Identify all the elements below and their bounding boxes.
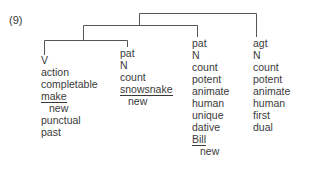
feature: potent	[253, 73, 282, 85]
column-patient-2: pat N count potent animate human unique …	[192, 37, 229, 157]
feature: animate	[253, 85, 290, 97]
feature: first	[253, 109, 270, 121]
feature: human	[253, 97, 285, 109]
feature: past	[41, 126, 61, 138]
feature: completable	[41, 78, 98, 90]
role-label: pat	[120, 47, 135, 59]
feature: action	[41, 66, 69, 78]
feature: N	[120, 59, 128, 71]
feature: count	[192, 61, 218, 73]
role-label: agt	[253, 37, 268, 49]
feature: punctual	[41, 114, 81, 126]
feature: V	[41, 54, 48, 66]
column-agent: agt N count potent animate human first d…	[253, 37, 290, 133]
feature: count	[253, 61, 279, 73]
feature: N	[192, 49, 200, 61]
feature: unique	[192, 109, 224, 121]
feature: N	[253, 49, 261, 61]
column-patient-1: pat N count snowsnake new	[120, 47, 173, 107]
feature: new	[128, 95, 147, 107]
feature: new	[49, 102, 68, 114]
feature: new	[200, 145, 219, 157]
feature: dual	[253, 121, 273, 133]
feature: potent	[192, 73, 221, 85]
feature: human	[192, 97, 224, 109]
feature: count	[120, 71, 146, 83]
feature: animate	[192, 85, 229, 97]
column-verb: V action completable make new punctual p…	[41, 54, 98, 138]
feature: dative	[192, 121, 220, 133]
role-label: pat	[192, 37, 207, 49]
